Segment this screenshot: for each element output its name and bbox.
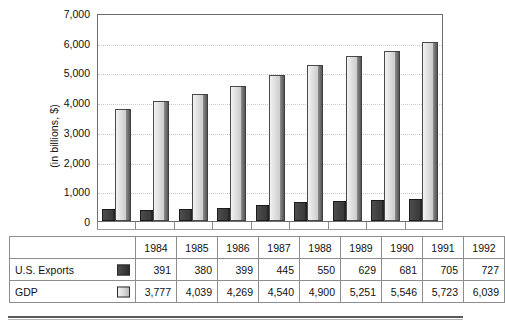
- bar-side: [164, 101, 169, 221]
- bar-gdp: [230, 86, 246, 221]
- table-column-header: 1987: [259, 237, 300, 259]
- bar-gdp: [269, 75, 285, 221]
- y-axis-tick-label: 2,000: [64, 157, 90, 168]
- bar-side: [433, 42, 438, 221]
- bar-gdp: [307, 65, 323, 221]
- table-corner-cell: [10, 237, 136, 259]
- table-row-label: GDP: [10, 281, 136, 303]
- table-column-header: 1992: [464, 237, 505, 259]
- bars-layer: [98, 15, 442, 221]
- y-axis-tick-label: 5,000: [64, 68, 90, 79]
- legend-swatch-us-exports: [117, 264, 130, 275]
- x-axis-tick: [135, 222, 136, 229]
- bar-gdp: [384, 51, 400, 221]
- data-table: 198419851986198719881989199019911992U.S.…: [9, 236, 505, 303]
- bar-gdp: [422, 42, 438, 221]
- bar-group: [136, 15, 174, 221]
- x-axis-tick: [212, 222, 213, 229]
- table-header-row: 198419851986198719881989199019911992: [10, 237, 505, 259]
- bar-side: [280, 75, 285, 221]
- bar-group: [406, 15, 443, 221]
- table-cell: 550: [300, 259, 341, 281]
- table-cell: 727: [464, 259, 505, 281]
- x-axis-line: [97, 229, 443, 230]
- x-axis-tick: [97, 222, 98, 229]
- bar-side: [126, 109, 131, 221]
- table-cell: 4,269: [218, 281, 259, 303]
- x-axis-tick: [328, 222, 329, 229]
- bar-gdp: [192, 94, 208, 221]
- table-cell: 705: [423, 259, 464, 281]
- table-cell: 5,251: [341, 281, 382, 303]
- bar-side: [357, 56, 362, 221]
- table-cell: 681: [382, 259, 423, 281]
- table-cell: 445: [259, 259, 300, 281]
- bar-side: [395, 51, 400, 221]
- y-axis-tick-labels: 7,0006,0005,0004,0003,0002,0001,0000: [48, 14, 94, 222]
- table-row: GDP3,7774,0394,2694,5404,9005,2515,5465,…: [10, 281, 505, 303]
- table-column-header: 1989: [341, 237, 382, 259]
- table-cell: 5,546: [382, 281, 423, 303]
- table-row-label: U.S. Exports: [10, 259, 136, 281]
- bar-gdp: [153, 101, 169, 221]
- y-axis-tick-label: 1,000: [64, 187, 90, 198]
- x-axis-tick: [442, 222, 443, 229]
- table-cell: 4,540: [259, 281, 300, 303]
- table-column-header: 1991: [423, 237, 464, 259]
- x-axis-tick: [289, 222, 290, 229]
- bar-chart: (in billions, $) 7,0006,0005,0004,0003,0…: [0, 0, 476, 238]
- table-cell: 399: [218, 259, 259, 281]
- table-column-header: 1985: [177, 237, 218, 259]
- bar-group: [252, 15, 290, 221]
- y-axis-tick-label: 3,000: [64, 128, 90, 139]
- y-axis-tick-label: 4,000: [64, 98, 90, 109]
- bar-group: [98, 15, 136, 221]
- table-cell: 4,900: [300, 281, 341, 303]
- table-column-header: 1984: [136, 237, 177, 259]
- legend-swatch-gdp: [117, 286, 130, 297]
- x-axis-tick: [251, 222, 252, 229]
- table-cell: 391: [136, 259, 177, 281]
- table-column-header: 1990: [382, 237, 423, 259]
- table-cell: 4,039: [177, 281, 218, 303]
- table-cell: 5,723: [423, 281, 464, 303]
- table-row: U.S. Exports391380399445550629681705727: [10, 259, 505, 281]
- bar-group: [213, 15, 251, 221]
- x-axis-tick: [366, 222, 367, 229]
- y-axis-tick-label: 6,000: [64, 38, 90, 49]
- series-name: U.S. Exports: [15, 264, 74, 276]
- table-column-header: 1988: [300, 237, 341, 259]
- bar-group: [367, 15, 405, 221]
- bar-group: [175, 15, 213, 221]
- bar-side: [203, 94, 208, 221]
- bottom-divider: [8, 316, 463, 320]
- x-axis-tick: [174, 222, 175, 229]
- bar-side: [241, 86, 246, 221]
- table-cell: 380: [177, 259, 218, 281]
- table-cell: 3,777: [136, 281, 177, 303]
- series-name: GDP: [15, 286, 38, 298]
- bar-gdp: [346, 56, 362, 221]
- plot-area: [97, 14, 443, 222]
- table-cell: 6,039: [464, 281, 505, 303]
- y-axis-tick-label: 7,000: [64, 9, 90, 20]
- bar-gdp: [115, 109, 131, 221]
- x-axis-ticks: [97, 222, 443, 232]
- x-axis-tick: [405, 222, 406, 229]
- table-column-header: 1986: [218, 237, 259, 259]
- y-axis-tick-label: 0: [84, 217, 90, 228]
- bar-group: [290, 15, 328, 221]
- table-cell: 629: [341, 259, 382, 281]
- bar-side: [318, 65, 323, 221]
- bar-group: [329, 15, 367, 221]
